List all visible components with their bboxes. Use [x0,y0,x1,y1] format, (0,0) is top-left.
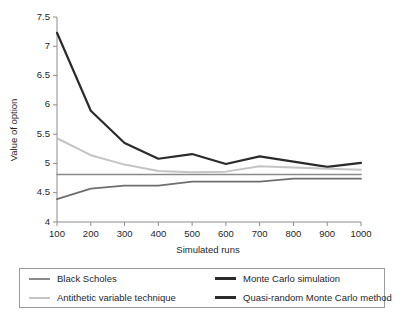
x-tick-label: 700 [252,228,268,239]
x-tick-label: 900 [319,228,335,239]
x-tick-group: 1002003004005006007008009001000 [49,222,372,239]
chart-legend: Black ScholesMonte Carlo simulationAntit… [19,268,385,308]
legend-entry: Quasi-random Monte Carlo method [206,293,392,303]
series-group [57,33,361,199]
legend-swatch [215,296,236,299]
y-axis-title: Value of option [8,99,19,162]
x-tick-label: 500 [184,228,200,239]
y-tick-label: 5.5 [37,128,50,139]
legend-label: Quasi-random Monte Carlo method [243,293,392,303]
legend-label: Monte Carlo simulation [243,274,340,284]
series-line [57,138,361,172]
x-tick-label: 800 [286,228,302,239]
x-axis-group: 1002003004005006007008009001000 [49,222,372,239]
x-tick-label: 1000 [350,228,371,239]
series-line [57,179,361,200]
legend-swatch [29,278,50,280]
legend-label: Black Scholes [57,274,117,284]
legend-grid: Black ScholesMonte Carlo simulationAntit… [20,269,384,307]
y-axis-group: 44.555.566.577.5 [37,11,57,227]
x-tick-label: 300 [117,228,133,239]
legend-label: Antithetic variable technique [57,293,176,303]
x-tick-label: 600 [218,228,234,239]
legend-entry: Antithetic variable technique [20,293,206,303]
x-tick-label: 200 [83,228,99,239]
legend-entry: Monte Carlo simulation [206,274,392,284]
series-line [57,33,361,167]
y-tick-label: 7.5 [37,11,50,22]
legend-entry: Black Scholes [20,274,206,284]
legend-swatch [215,277,236,280]
legend-swatch [29,297,50,299]
x-tick-label: 100 [49,228,65,239]
y-tick-label: 4.5 [37,186,50,197]
chart-figure: 44.555.566.577.5 10020030040050060070080… [0,0,404,319]
y-tick-label: 6 [45,98,50,109]
y-tick-label: 5 [45,157,50,168]
y-tick-label: 7 [45,40,50,51]
x-tick-label: 400 [150,228,166,239]
y-tick-group: 44.555.566.577.5 [37,11,57,227]
y-tick-label: 4 [45,216,50,227]
x-axis-title: Simulated runs [176,244,240,255]
line-chart-plot: 44.555.566.577.5 10020030040050060070080… [0,0,404,265]
y-tick-label: 6.5 [37,69,50,80]
